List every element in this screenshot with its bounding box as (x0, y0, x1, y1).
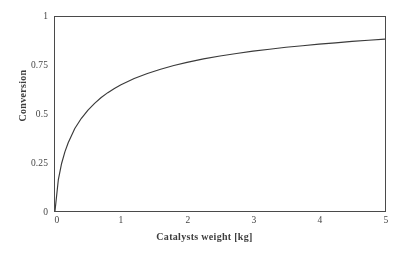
y-tick-label: 0.25 (31, 158, 48, 168)
x-tick-label: 5 (374, 215, 398, 226)
plot-area (54, 16, 386, 212)
conversion-plot-figure: Conversion 1 0.75 0.5 0.25 0 0 1 2 3 4 5… (0, 0, 409, 255)
x-tick-label: 3 (242, 215, 266, 226)
y-axis-label: Conversion (17, 56, 28, 136)
y-tick-label: 1 (43, 11, 48, 21)
y-tick-label: 0.75 (31, 60, 48, 70)
conversion-curve (55, 39, 385, 211)
y-tick-label: 0.5 (36, 109, 48, 119)
x-tick-label: 4 (308, 215, 332, 226)
x-tick-label: 0 (45, 215, 69, 226)
x-tick-label: 2 (176, 215, 200, 226)
conversion-curve-svg (55, 17, 385, 211)
x-axis-label: Catalysts weight [kg] (0, 231, 409, 242)
x-tick-label: 1 (109, 215, 133, 226)
